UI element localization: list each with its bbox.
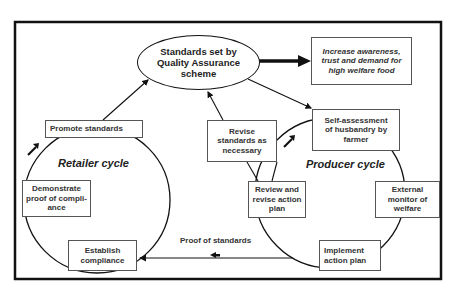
retailer-step-demonstrate: Demonstrate proof of compli- ance xyxy=(22,180,91,217)
shared-node-revise-standards: Revise standards as necessary xyxy=(207,120,277,162)
retailer-step-label: Establish compliance xyxy=(80,246,124,265)
producer-step-label: Self-assessment of husbandry by farmer xyxy=(324,116,387,145)
central-node-label: Standards set by Quality Assurance schem… xyxy=(157,46,240,79)
retailer-step-establish: Establish compliance xyxy=(68,240,137,271)
central-node-standards: Standards set by Quality Assurance schem… xyxy=(137,35,260,90)
producer-step-external-monitor: External monitor of welfare xyxy=(375,181,440,218)
producer-step-self-assessment: Self-assessment of husbandry by farmer xyxy=(312,109,400,151)
producer-step-label: Review and revise action plan xyxy=(253,185,302,214)
retailer-step-label: Promote standards xyxy=(50,124,123,134)
producer-cycle-title: Producer cycle xyxy=(306,158,385,170)
producer-step-review: Review and revise action plan xyxy=(248,181,306,218)
proof-of-standards-label: Proof of standards xyxy=(180,236,251,245)
retailer-cycle-title: Retailer cycle xyxy=(58,157,129,169)
retailer-step-label: Demonstrate proof of compli- ance xyxy=(26,184,87,213)
producer-step-label: Implement action plan xyxy=(324,246,366,265)
shared-node-label: Revise standards as necessary xyxy=(217,127,266,156)
retailer-step-promote: Promote standards xyxy=(45,120,143,138)
outcome-node-label: Increase awareness, trust and demand for… xyxy=(321,47,401,76)
outcome-node: Increase awareness, trust and demand for… xyxy=(311,37,412,85)
producer-step-label: External monitor of welfare xyxy=(388,185,428,214)
producer-step-implement: Implement action plan xyxy=(319,240,381,271)
